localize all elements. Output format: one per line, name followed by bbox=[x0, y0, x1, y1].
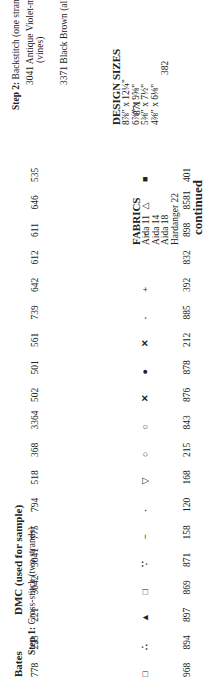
stitch-symbol-icon: ▲ bbox=[140, 613, 150, 622]
bates-header: Bates bbox=[12, 651, 24, 677]
dmc-number: 518 bbox=[30, 470, 40, 484]
dmc-number: 561 bbox=[30, 333, 40, 347]
stitch-symbol-icon: ✕ bbox=[140, 339, 150, 347]
bates-number: 215 bbox=[182, 443, 192, 457]
dmc-number: 794 bbox=[30, 498, 40, 512]
dmc-number: 739 bbox=[30, 305, 40, 319]
step2-dmc-0: 3041 Antique Violet-med.(vines) bbox=[26, 0, 45, 85]
bates-number: 876 bbox=[182, 388, 192, 402]
bates-number: 968 bbox=[182, 663, 192, 677]
stitch-symbol-icon: ∴ bbox=[140, 644, 150, 650]
dmc-number: 223 bbox=[30, 635, 40, 649]
bates-number: 878 bbox=[182, 360, 192, 374]
bates-number: 897 bbox=[182, 608, 192, 622]
bates-number: 885 bbox=[182, 305, 192, 319]
step2-bates-1: 382 bbox=[160, 61, 170, 75]
bates-number: 894 bbox=[182, 635, 192, 649]
fabric-item: Hardanger 22 bbox=[171, 193, 181, 245]
continued-label: continued bbox=[190, 180, 206, 235]
design-sizes-section: DESIGN SIZES 8⅞" x 12¼" 6⅞" x 9⅝" 5⅜" x … bbox=[110, 49, 160, 125]
dmc-number: 502 bbox=[30, 388, 40, 402]
stitch-symbol-icon: − bbox=[140, 534, 150, 539]
dmc-number: 611 bbox=[30, 223, 40, 237]
bates-number: 168 bbox=[182, 470, 192, 484]
dmc-number: 3041 bbox=[30, 548, 40, 567]
stitch-symbol-icon: ✕ bbox=[140, 394, 150, 402]
stitch-symbol-icon: □ bbox=[140, 589, 150, 594]
dmc-number: 535 bbox=[30, 168, 40, 182]
bates-number: 843 bbox=[182, 415, 192, 429]
bates-number: 871 bbox=[182, 553, 192, 567]
dmc-number: 3364 bbox=[30, 411, 40, 430]
stitch-symbol-icon: · bbox=[140, 509, 150, 512]
bates-number: 392 bbox=[182, 278, 192, 292]
dmc-number: 642 bbox=[30, 278, 40, 292]
stitch-symbol-icon: ■ bbox=[140, 177, 150, 182]
bates-number: 869 bbox=[182, 580, 192, 594]
dmc-number: 368 bbox=[30, 443, 40, 457]
stitch-symbol-icon: ○ bbox=[140, 424, 150, 429]
bates-number: 120 bbox=[182, 498, 192, 512]
bates-number: 212 bbox=[182, 333, 192, 347]
stitch-symbol-icon: · bbox=[140, 316, 150, 319]
dmc-number: 646 bbox=[30, 195, 40, 209]
stitch-symbol-icon: ○ bbox=[140, 452, 150, 457]
chart-key-page: Bates DMC (used for sample) Step 1: Cros… bbox=[0, 0, 207, 685]
bates-number: 158 bbox=[182, 525, 192, 539]
dmc-number: 612 bbox=[30, 250, 40, 264]
dmc-number: 778 bbox=[30, 663, 40, 677]
dmc-number: 3042 bbox=[30, 576, 40, 595]
bates-number: 832 bbox=[182, 250, 192, 264]
stitch-symbol-icon: ▽ bbox=[140, 478, 150, 485]
dmc-number: 775 bbox=[30, 525, 40, 539]
step2-desc: Backstitch (one strand) bbox=[11, 0, 21, 79]
fabrics-section: FABRICS Aida 11 Aida 14 Aida 18 Hardange… bbox=[130, 193, 180, 245]
stitch-symbol-icon: ∵ bbox=[140, 561, 150, 567]
step2-label: Step 2: bbox=[11, 82, 21, 110]
dmc-number: 221 bbox=[30, 608, 40, 622]
stitch-symbol-icon: + bbox=[140, 287, 150, 292]
stitch-symbol-icon: □ bbox=[140, 672, 150, 677]
stitch-symbol-icon: ● bbox=[140, 369, 150, 374]
dmc-header: DMC (used for sample) bbox=[12, 505, 24, 615]
step2-dmc-1: 3371 Black Brown (all else) bbox=[60, 0, 70, 85]
dmc-number: 501 bbox=[30, 360, 40, 374]
